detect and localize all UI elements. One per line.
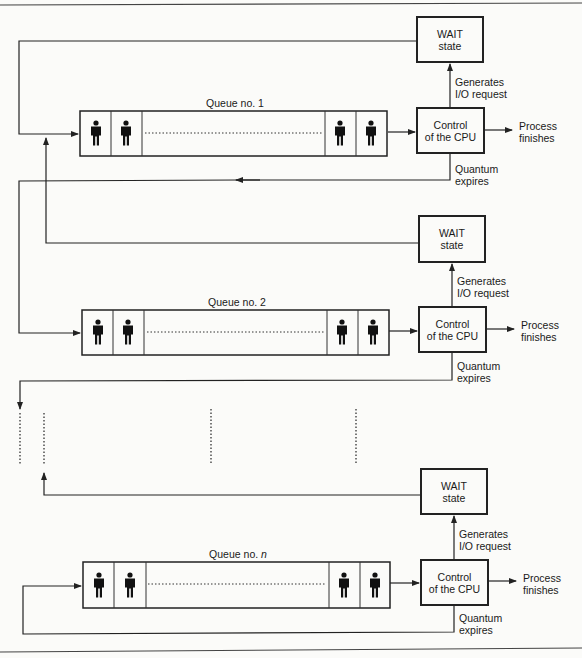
- process-finishes-label-2: Processfinishes: [521, 319, 559, 343]
- queue-n-label: Queue no. n: [203, 548, 273, 560]
- io-request-label-2: GeneratesI/O request: [457, 275, 509, 299]
- wait-state-box-2: WAITstate: [418, 215, 486, 263]
- cpu-control-box-n: Controlof the CPU: [420, 559, 489, 606]
- queue-1-box: [80, 111, 387, 156]
- top-rule: [0, 3, 582, 5]
- queue-n-box: [83, 562, 390, 608]
- cpu-control-box-1: Controlof the CPU: [416, 107, 485, 154]
- io-request-label-1: GeneratesI/O request: [455, 76, 507, 100]
- process-finishes-label-1: Processfinishes: [519, 120, 557, 144]
- queue-2-label: Queue no. 2: [202, 296, 272, 308]
- quantum-expires-label-1: Quantumexpires: [455, 163, 498, 187]
- quantum-expires-label-2: Quantumexpires: [457, 360, 500, 384]
- quantum-expires-label-n: Quantumexpires: [459, 612, 502, 636]
- waitn-return-line: [44, 473, 420, 495]
- queue-2-box: [82, 310, 389, 355]
- wait-state-box-1: WAITstate: [416, 16, 484, 63]
- wait-state-box-n: WAITstate: [420, 468, 488, 515]
- process-finishes-label-n: Processfinishes: [523, 572, 561, 596]
- io-request-label-n: GeneratesI/O request: [459, 528, 511, 552]
- bottom-rule: [0, 648, 582, 652]
- quantum2-line: [20, 352, 452, 409]
- queue-1-label: Queue no. 1: [200, 97, 270, 109]
- cpu-control-box-2: Controlof the CPU: [418, 306, 487, 353]
